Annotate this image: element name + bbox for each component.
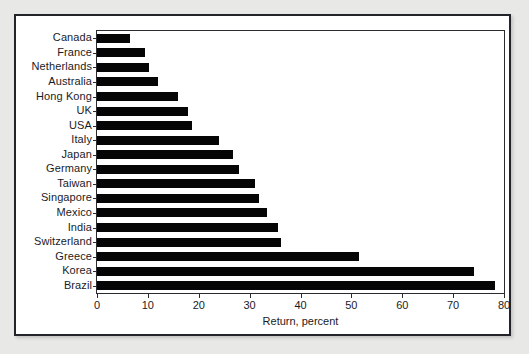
y-axis-tick [93,82,97,83]
bar-greece [97,252,359,261]
y-axis-label-taiwan: Taiwan [57,179,92,188]
x-axis-tick-label: 10 [142,299,154,311]
y-axis-tick [93,126,97,127]
bar-india [97,223,278,232]
chart-plot-area: CanadaFranceNetherlandsAustraliaHong Kon… [16,16,509,334]
y-axis-label-france: France [57,48,92,57]
y-axis-label-hong-kong: Hong Kong [36,92,92,101]
x-axis-tick-label: 20 [193,299,205,311]
x-axis-tick [199,293,200,298]
y-axis-tick [93,228,97,229]
bar-japan [97,150,233,159]
y-axis-tick [93,271,97,272]
bar-mexico [97,208,267,217]
bar-singapore [97,194,259,203]
bar-korea [97,267,474,276]
x-axis-tick-label: 30 [244,299,256,311]
bar-switzerland [97,238,281,247]
x-axis-tick [250,293,251,298]
x-axis-title: Return, percent [263,315,339,327]
y-axis-label-japan: Japan [62,150,92,159]
x-axis-tick-label: 60 [396,299,408,311]
chart-axes: CanadaFranceNetherlandsAustraliaHong Kon… [96,30,505,294]
x-axis-tick-label: 0 [94,299,100,311]
y-axis-tick [93,97,97,98]
bar-germany [97,165,239,174]
y-axis-tick [93,169,97,170]
y-axis-tick [93,213,97,214]
x-axis-tick-label: 70 [447,299,459,311]
y-axis-tick [93,242,97,243]
x-axis-tick [402,293,403,298]
y-axis-tick [93,155,97,156]
bar-taiwan [97,179,255,188]
bar-canada [97,34,130,43]
y-axis-label-germany: Germany [46,164,92,173]
y-axis-tick [93,38,97,39]
x-axis-tick-label: 50 [345,299,357,311]
y-axis-label-netherlands: Netherlands [32,62,92,71]
bar-brazil [97,281,495,290]
y-axis-label-brazil: Brazil [64,281,92,290]
x-axis-tick [97,293,98,298]
bar-italy [97,136,219,145]
x-axis-tick [351,293,352,298]
y-axis-label-singapore: Singapore [41,193,92,202]
y-axis-label-australia: Australia [48,77,92,86]
y-axis-tick [93,257,97,258]
y-axis-tick [93,184,97,185]
y-axis-tick [93,111,97,112]
y-axis-tick [93,198,97,199]
x-axis-tick [453,293,454,298]
y-axis-label-uk: UK [77,106,92,115]
y-axis-label-india: India [68,223,92,232]
y-axis-tick [93,286,97,287]
x-axis-tick [504,293,505,298]
y-axis-label-usa: USA [69,121,92,130]
figure-panel: CanadaFranceNetherlandsAustraliaHong Kon… [14,14,511,336]
y-axis-label-italy: Italy [71,135,92,144]
x-axis-tick [148,293,149,298]
bar-france [97,48,145,57]
y-axis-label-mexico: Mexico [57,208,92,217]
bar-hong-kong [97,92,178,101]
y-axis-tick [93,67,97,68]
y-axis-label-korea: Korea [62,266,92,275]
y-axis-label-greece: Greece [55,252,92,261]
bar-netherlands [97,63,149,72]
bar-australia [97,77,158,86]
x-axis-tick-label: 40 [294,299,306,311]
y-axis-tick [93,140,97,141]
bar-usa [97,121,192,130]
x-axis-tick-label: 80 [498,299,510,311]
bar-uk [97,107,188,116]
y-axis-tick [93,53,97,54]
y-axis-label-canada: Canada [53,33,92,42]
y-axis-label-switzerland: Switzerland [34,237,92,246]
x-axis-tick [301,293,302,298]
